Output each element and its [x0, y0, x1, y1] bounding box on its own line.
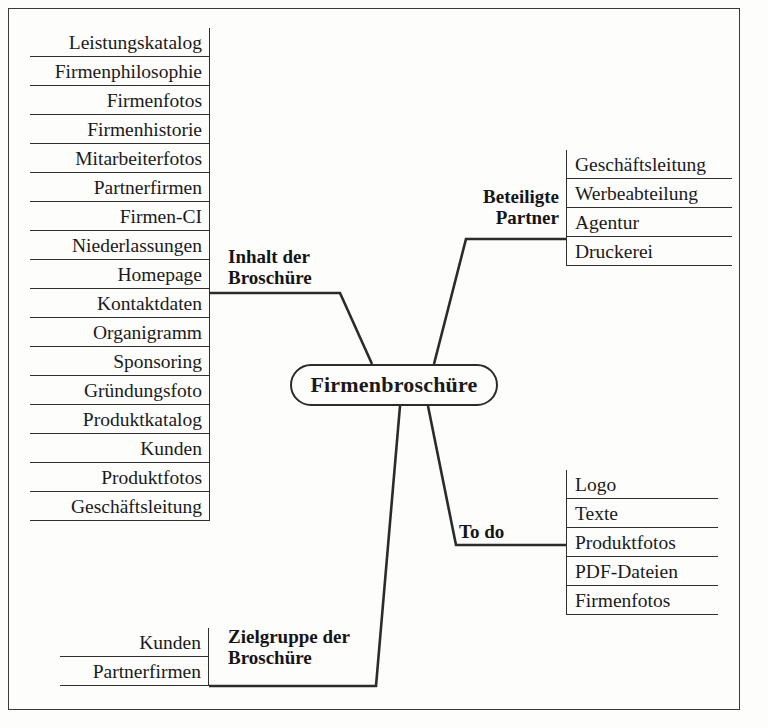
list-item[interactable]: Firmenhistorie: [30, 115, 209, 144]
list-item[interactable]: Organigramm: [30, 318, 209, 347]
branch-list-inhalt: Leistungskatalog Firmenphilosophie Firme…: [30, 28, 210, 521]
list-item[interactable]: Partnerfirmen: [30, 173, 209, 202]
branch-label-partner: Beteiligte Partner: [459, 186, 559, 228]
list-item[interactable]: Geschäftsleitung: [567, 150, 732, 179]
list-item[interactable]: Logo: [567, 470, 718, 499]
branch-list-zielgruppe: Kunden Partnerfirmen: [60, 628, 209, 686]
list-item[interactable]: Partnerfirmen: [60, 657, 208, 686]
mindmap-canvas: Leistungskatalog Firmenphilosophie Firme…: [0, 0, 768, 728]
list-item[interactable]: Leistungskatalog: [30, 28, 209, 57]
list-item[interactable]: Sponsoring: [30, 347, 209, 376]
list-item[interactable]: Texte: [567, 499, 718, 528]
central-node-label: Firmenbroschüre: [310, 372, 477, 398]
branch-list-todo: Logo Texte Produktfotos PDF-Dateien Firm…: [566, 470, 718, 615]
list-item[interactable]: Kunden: [30, 434, 209, 463]
branch-label-todo: To do: [459, 521, 504, 542]
branch-list-partner: Geschäftsleitung Werbeabteilung Agentur …: [566, 150, 732, 266]
list-item[interactable]: Firmenfotos: [30, 86, 209, 115]
list-item[interactable]: Druckerei: [567, 237, 732, 266]
list-item[interactable]: Mitarbeiterfotos: [30, 144, 209, 173]
list-item[interactable]: Geschäftsleitung: [30, 492, 209, 521]
list-item[interactable]: Firmenphilosophie: [30, 57, 209, 86]
central-node[interactable]: Firmenbroschüre: [290, 364, 498, 406]
list-item[interactable]: Kontaktdaten: [30, 289, 209, 318]
list-item[interactable]: Homepage: [30, 260, 209, 289]
branch-label-inhalt: Inhalt der Broschüre: [228, 246, 312, 288]
branch-label-zielgruppe: Zielgruppe der Broschüre: [228, 626, 350, 668]
list-item[interactable]: Produktfotos: [567, 528, 718, 557]
list-item[interactable]: Niederlassungen: [30, 231, 209, 260]
list-item[interactable]: Firmen-CI: [30, 202, 209, 231]
list-item[interactable]: Gründungsfoto: [30, 376, 209, 405]
list-item[interactable]: Produktkatalog: [30, 405, 209, 434]
list-item[interactable]: Agentur: [567, 208, 732, 237]
list-item[interactable]: Produktfotos: [30, 463, 209, 492]
list-item[interactable]: Kunden: [60, 628, 208, 657]
list-item[interactable]: Werbeabteilung: [567, 179, 732, 208]
list-item[interactable]: Firmenfotos: [567, 586, 718, 615]
list-item[interactable]: PDF-Dateien: [567, 557, 718, 586]
